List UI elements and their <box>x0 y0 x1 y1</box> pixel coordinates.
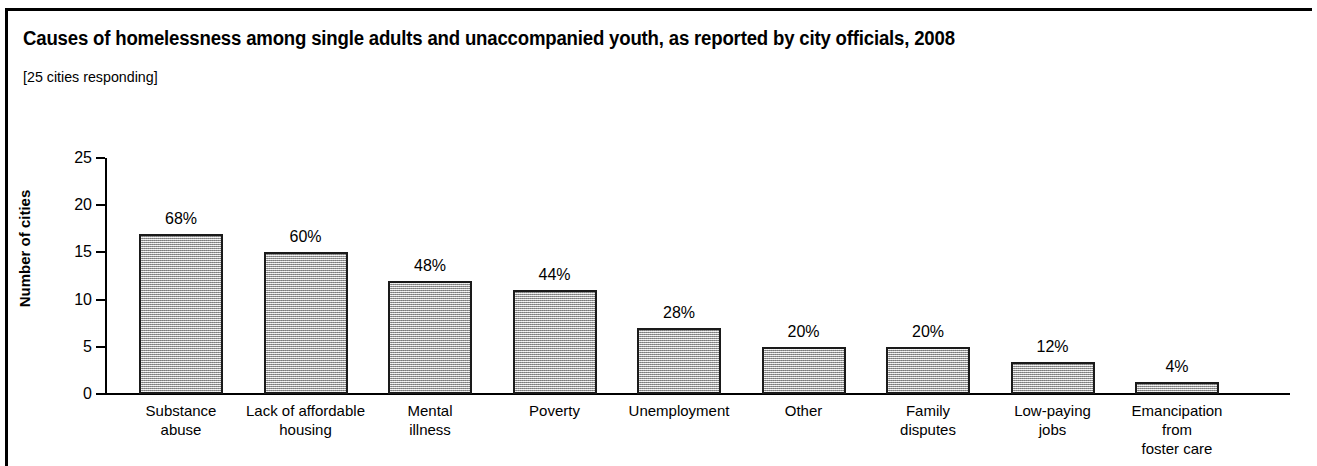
y-axis-tick-mark <box>96 251 105 253</box>
bar-group: 12% <box>1011 158 1095 394</box>
bar-value-label: 44% <box>487 266 623 284</box>
bar-group: 60% <box>264 158 348 394</box>
bar[interactable] <box>1135 382 1219 394</box>
chart-title: Causes of homelessness among single adul… <box>23 27 955 50</box>
plot-area: 68%60%48%44%28%20%20%12%4% <box>105 158 1265 394</box>
y-axis-tick-mark <box>96 299 105 301</box>
bar-value-label: 48% <box>362 257 498 275</box>
bar-value-label: 20% <box>736 323 872 341</box>
bar-value-label: 20% <box>860 323 996 341</box>
y-axis-tick-label: 5 <box>52 338 92 356</box>
bar[interactable] <box>637 328 721 394</box>
bar[interactable] <box>139 234 223 394</box>
frame-left-rule <box>5 8 8 466</box>
y-axis-tick-mark <box>96 393 105 395</box>
bar-value-label: 12% <box>985 338 1121 356</box>
y-axis-title: Number of cities <box>16 184 33 314</box>
bar-group: 28% <box>637 158 721 394</box>
bar-group: 68% <box>139 158 223 394</box>
bar-group: 20% <box>886 158 970 394</box>
y-axis-tick-label: 0 <box>52 385 92 403</box>
y-axis-tick-label: 25 <box>52 149 92 167</box>
bar-value-label: 60% <box>238 228 374 246</box>
bar-value-label: 4% <box>1109 358 1245 376</box>
frame-top-rule <box>5 8 1312 11</box>
bar[interactable] <box>513 290 597 394</box>
bar-group: 48% <box>388 158 472 394</box>
bar[interactable] <box>388 281 472 394</box>
y-axis-tick-mark <box>96 157 105 159</box>
y-axis-tick-labels: 0510152025 <box>46 0 92 466</box>
y-axis-tick-label: 20 <box>52 196 92 214</box>
bar[interactable] <box>762 347 846 394</box>
y-axis-tick-label: 15 <box>52 243 92 261</box>
bar[interactable] <box>886 347 970 394</box>
y-axis-tick-mark <box>96 346 105 348</box>
y-axis-tick-mark <box>96 204 105 206</box>
chart-figure: Causes of homelessness among single adul… <box>0 0 1317 466</box>
bar-value-label: 68% <box>113 210 249 228</box>
bar-value-label: 28% <box>611 304 747 322</box>
bar[interactable] <box>1011 362 1095 394</box>
bar-group: 44% <box>513 158 597 394</box>
y-axis-tick-label: 10 <box>52 291 92 309</box>
x-axis-category-label: Emancipation from foster care <box>1092 401 1262 458</box>
bar[interactable] <box>264 252 348 394</box>
bar-group: 20% <box>762 158 846 394</box>
bar-group: 4% <box>1135 158 1219 394</box>
